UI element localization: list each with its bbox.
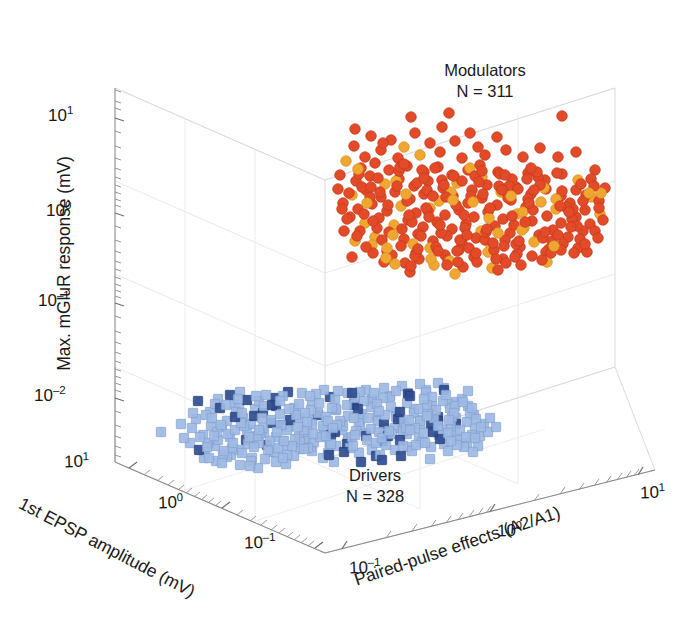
data-point: [219, 446, 228, 455]
data-point: [442, 260, 453, 271]
data-point: [536, 197, 547, 208]
data-point: [359, 209, 370, 220]
data-point: [353, 164, 364, 175]
data-point: [540, 227, 551, 238]
data-point: [328, 423, 337, 432]
data-point: [522, 174, 533, 185]
data-point: [379, 383, 388, 392]
data-point: [444, 108, 455, 119]
data-point: [474, 177, 485, 188]
data-point: [284, 404, 293, 413]
figure-3d-scatter: 101 100 10–1 10–2 101 100 10–1 10–1 100 …: [0, 0, 683, 636]
data-point: [366, 131, 377, 142]
data-point: [468, 197, 479, 208]
data-point: [396, 451, 405, 460]
data-point: [416, 231, 427, 242]
data-point: [324, 450, 333, 459]
data-point: [437, 122, 448, 133]
data-point: [506, 191, 517, 202]
data-point: [527, 251, 538, 262]
data-point: [399, 159, 410, 170]
data-point: [593, 233, 604, 244]
data-point: [406, 112, 417, 123]
annotation-modulators: Modulators N = 311: [400, 60, 570, 103]
data-point: [384, 426, 393, 435]
data-point: [333, 184, 344, 195]
data-point: [261, 390, 270, 399]
data-point: [187, 423, 196, 432]
data-point: [491, 254, 502, 265]
data-point: [308, 429, 317, 438]
data-point: [370, 158, 381, 169]
data-point: [485, 203, 496, 214]
data-point: [485, 413, 494, 422]
data-point: [459, 210, 470, 221]
data-point: [501, 145, 512, 156]
data-point: [383, 200, 394, 211]
data-point: [552, 168, 563, 179]
data-point: [237, 448, 246, 457]
data-point: [209, 431, 218, 440]
data-point: [202, 442, 211, 451]
data-point: [314, 398, 323, 407]
annotation-drivers-label: Drivers: [300, 465, 450, 486]
data-point: [327, 403, 336, 412]
series-modulators: [333, 108, 611, 280]
data-point: [500, 170, 511, 181]
series-drivers: [156, 378, 500, 472]
data-point: [553, 152, 564, 163]
data-point: [471, 248, 482, 259]
data-point: [398, 441, 407, 450]
y-axis-title: Max. mGluR response (mV): [54, 114, 75, 414]
data-point: [448, 195, 459, 206]
data-point: [195, 432, 204, 441]
data-point: [242, 395, 251, 404]
data-point: [341, 156, 352, 167]
data-point: [453, 257, 464, 268]
data-point: [564, 207, 575, 218]
annotation-modulators-label: Modulators: [400, 60, 570, 81]
data-point: [433, 421, 442, 430]
data-point: [399, 142, 410, 153]
data-point: [347, 388, 356, 397]
data-point: [406, 261, 417, 272]
data-point: [293, 422, 302, 431]
data-point: [458, 397, 467, 406]
data-point: [396, 241, 407, 252]
data-point: [404, 415, 413, 424]
data-point: [457, 176, 468, 187]
data-point: [350, 430, 359, 439]
data-point: [526, 163, 537, 174]
data-point: [569, 248, 580, 259]
data-point: [420, 438, 429, 447]
data-point: [468, 447, 477, 456]
data-point: [404, 210, 415, 221]
data-point: [342, 214, 353, 225]
data-point: [580, 239, 591, 250]
data-point: [176, 419, 185, 428]
x-tick-label-0: 101: [64, 452, 90, 473]
data-point: [353, 404, 362, 413]
data-point: [524, 198, 535, 209]
data-point: [263, 445, 272, 454]
data-point: [446, 436, 455, 445]
data-point: [300, 408, 309, 417]
data-point: [598, 215, 609, 226]
data-point: [433, 246, 444, 257]
data-point: [348, 441, 357, 450]
data-point: [424, 212, 435, 223]
data-point: [333, 386, 342, 395]
data-point: [377, 455, 386, 464]
data-point: [557, 111, 568, 122]
data-point: [349, 413, 358, 422]
data-point: [279, 436, 288, 445]
data-point: [363, 413, 372, 422]
annotation-drivers: Drivers N = 328: [300, 465, 450, 508]
data-point: [278, 453, 287, 462]
data-point: [419, 173, 430, 184]
data-point: [439, 180, 450, 191]
data-point: [384, 165, 395, 176]
data-point: [450, 136, 461, 147]
data-point: [493, 228, 504, 239]
data-point: [410, 128, 421, 139]
